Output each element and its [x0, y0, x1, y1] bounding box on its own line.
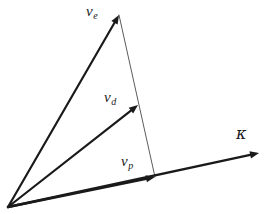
- vector-canvas: [0, 0, 264, 214]
- vector-label-vd-subscript: d: [111, 96, 116, 107]
- vector-label-ve: ve: [86, 3, 98, 21]
- vector-label-vd-base: v: [104, 89, 111, 105]
- vector-label-vp: vp: [121, 153, 133, 171]
- vector-label-kappa: κ: [236, 126, 247, 142]
- vector-label-vp-subscript: p: [128, 160, 133, 171]
- vector-label-ve-base: v: [86, 3, 93, 19]
- vector-label-ve-subscript: e: [93, 10, 97, 21]
- vector-label-vp-base: v: [121, 153, 128, 169]
- vector-diagram: ve vd vp κ: [0, 0, 264, 214]
- vector-label-vd: vd: [104, 89, 116, 107]
